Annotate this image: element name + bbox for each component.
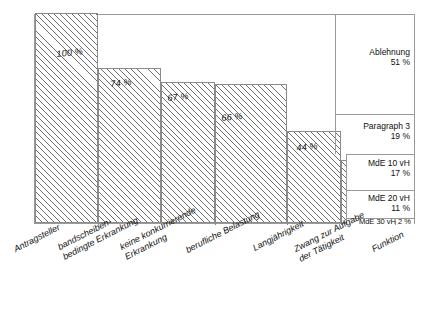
category-label-funktion: Funktion (370, 229, 406, 254)
segment-paragraph3-label: Paragraph 3 (363, 121, 410, 131)
axis-tick (215, 221, 216, 225)
segment-paragraph3-value: 19 % (363, 131, 410, 141)
axis-tick (395, 221, 396, 225)
bar-bandscheiben (98, 68, 161, 223)
segment-ablehnung-text: Ablehnung 51 % (369, 47, 410, 67)
bar-antragsteller (35, 13, 98, 223)
segment-ablehnung-label: Ablehnung (369, 47, 410, 57)
bar-keine-konkurrierende (161, 82, 215, 223)
segment-mde20-label: MdE 20 vH (368, 193, 410, 203)
plot-area: 100 % 74 % 67 % 66 % 44 % 30 % Ablehnung… (34, 14, 415, 224)
segment-mde10-value: 17 % (368, 168, 410, 178)
category-line-1: Funktion (370, 229, 406, 254)
segment-mde20-text: MdE 20 vH 11 % (368, 193, 410, 213)
segment-ablehnung-value: 51 % (369, 57, 410, 67)
segment-paragraph3-text: Paragraph 3 19 % (363, 121, 410, 141)
segment-mde10-text: MdE 10 vH 17 % (368, 158, 410, 178)
segment-mde20-value: 11 % (368, 203, 410, 213)
chart-canvas: 100 % 74 % 67 % 66 % 44 % 30 % Ablehnung… (0, 0, 431, 324)
category-line-1: Antragsteller (12, 222, 62, 255)
bar-berufliche-belastung (215, 84, 287, 223)
category-label-antragsteller: Antragsteller (12, 222, 62, 255)
segment-mde10-label: MdE 10 vH (368, 158, 410, 168)
